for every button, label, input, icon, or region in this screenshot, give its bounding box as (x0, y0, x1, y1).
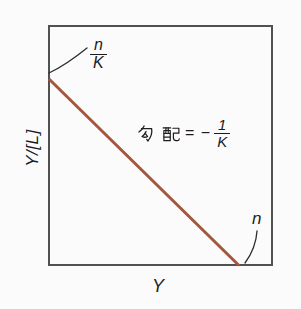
slope-annotation: = − 1 K (137, 114, 230, 152)
scatchard-line (49, 79, 239, 266)
leader-line-x-intercept (245, 231, 257, 263)
y-intercept-denominator: K (90, 54, 107, 72)
y-intercept-label: n K (90, 37, 107, 72)
figure-canvas: Y/[L] Y n K = − (0, 0, 301, 309)
kanji-hai-slope-icon (162, 124, 180, 143)
slope-fraction-denominator: K (214, 133, 230, 150)
leader-line-y-intercept (49, 48, 87, 73)
slope-fraction-numerator: 1 (215, 117, 229, 133)
slope-fraction: 1 K (214, 117, 230, 150)
x-intercept-label: n (252, 209, 261, 229)
y-axis-label: Y/[L] (23, 103, 43, 193)
plot-lines-layer (0, 0, 301, 309)
x-axis-label: Y (146, 275, 170, 297)
slope-equals-minus: = − (185, 124, 211, 142)
kanji-kou-slope-icon (137, 124, 155, 143)
y-intercept-numerator: n (91, 37, 106, 54)
